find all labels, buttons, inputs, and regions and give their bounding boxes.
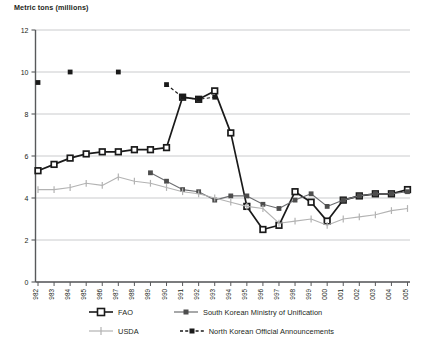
x-tick-label: 1987	[112, 289, 119, 300]
data-point	[196, 97, 201, 102]
x-tick-label: 1983	[48, 289, 55, 300]
data-point	[309, 191, 314, 196]
x-tick-label: 1998	[289, 289, 296, 300]
data-point	[164, 82, 169, 87]
x-tick-label: 1985	[80, 289, 87, 300]
legend-label-usda: USDA	[118, 327, 139, 336]
data-point	[244, 194, 249, 199]
data-point	[357, 194, 362, 199]
x-tick-label: 1996	[257, 289, 264, 300]
x-tick-label: 2001	[337, 289, 344, 300]
series-usda	[38, 174, 408, 229]
series-line	[38, 177, 408, 225]
x-tick-label: 1992	[193, 289, 200, 300]
legend-item-fao[interactable]: FAO	[88, 304, 133, 320]
legend-swatch-usda	[88, 326, 114, 336]
series-line	[167, 85, 215, 100]
data-point	[293, 198, 298, 203]
data-point	[308, 199, 314, 205]
data-point	[405, 189, 410, 194]
y-tick-label: 0	[25, 279, 29, 286]
y-tick-label: 2	[25, 237, 29, 244]
x-tick-label: 1995	[241, 289, 248, 300]
data-point	[277, 206, 282, 211]
chart-legend: FAO South Korean Ministry of Unification…	[0, 300, 423, 346]
data-point	[260, 227, 266, 233]
data-point	[228, 130, 234, 136]
x-tick-label: 2004	[385, 289, 392, 300]
data-point	[116, 149, 122, 155]
legend-item-mou[interactable]: South Korean Ministry of Unification	[173, 304, 322, 320]
series-fao	[35, 88, 410, 232]
y-tick-label: 10	[21, 69, 29, 76]
data-point	[325, 204, 330, 209]
legend-swatch-mou	[173, 307, 199, 317]
data-point	[228, 194, 233, 199]
legend-row-1: FAO South Korean Ministry of Unification	[88, 304, 322, 320]
chart-container: Metric tons (millions) 02468101219821983…	[0, 0, 423, 349]
legend-label-mou: South Korean Ministry of Unification	[203, 308, 322, 317]
y-tick-label: 6	[25, 153, 29, 160]
data-point	[389, 191, 394, 196]
x-tick-label: 1988	[128, 289, 135, 300]
x-tick-label: 1993	[209, 289, 216, 300]
data-point	[148, 147, 154, 153]
data-point	[99, 149, 105, 155]
data-point	[132, 147, 138, 153]
data-point	[36, 80, 41, 85]
data-point	[35, 168, 41, 174]
legend-swatch-nk	[179, 326, 205, 336]
data-point	[68, 70, 73, 75]
data-point	[212, 95, 217, 100]
x-tick-label: 1984	[64, 289, 71, 300]
x-tick-label: 2000	[321, 289, 328, 300]
data-point	[164, 179, 169, 184]
x-tick-label: 1989	[144, 289, 151, 300]
x-tick-label: 1997	[273, 289, 280, 300]
data-point	[67, 155, 73, 161]
legend-label-fao: FAO	[118, 308, 133, 317]
series-south-korean-ministry-of-unification	[148, 170, 410, 211]
x-tick-label: 1982	[32, 289, 39, 300]
y-tick-label: 12	[21, 27, 29, 34]
legend-item-nk[interactable]: North Korean Official Announcements	[179, 323, 334, 339]
data-point	[164, 145, 170, 151]
x-tick-label: 2002	[353, 289, 360, 300]
data-point	[341, 198, 346, 203]
legend-swatch-fao	[88, 307, 114, 317]
x-tick-label: 1994	[225, 289, 232, 300]
legend-item-usda[interactable]: USDA	[88, 323, 139, 339]
series-north-korean-official-announcements	[36, 70, 218, 102]
x-tick-label: 1999	[305, 289, 312, 300]
legend-label-nk: North Korean Official Announcements	[209, 327, 334, 336]
data-point	[51, 162, 57, 168]
legend-row-2: USDA North Korean Official Announcements	[88, 323, 334, 339]
data-point	[212, 88, 218, 94]
x-tick-label: 1990	[161, 289, 168, 300]
data-point	[83, 151, 89, 157]
y-tick-label: 8	[25, 111, 29, 118]
y-tick-label: 4	[25, 195, 29, 202]
data-point	[292, 189, 298, 195]
data-point	[180, 95, 185, 100]
series-line	[38, 91, 408, 230]
data-point	[373, 191, 378, 196]
x-tick-label: 1986	[96, 289, 103, 300]
data-point	[148, 170, 153, 175]
x-tick-label: 1991	[177, 289, 184, 300]
series-line	[150, 173, 407, 209]
line-chart-plot: 0246810121982198319841985198619871988198…	[0, 0, 423, 300]
x-tick-label: 2005	[402, 289, 409, 300]
x-tick-label: 2003	[369, 289, 376, 300]
data-point	[116, 70, 121, 75]
